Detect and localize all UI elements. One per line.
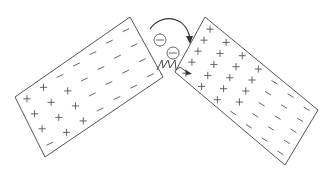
left-plate-outline xyxy=(15,17,163,157)
charge-transfer-diagram: Two charged plates tilted toward each ot… xyxy=(0,0,331,172)
electron-icon xyxy=(154,34,166,46)
left-plate xyxy=(15,17,163,157)
right-plate xyxy=(175,17,318,165)
electron-icon xyxy=(167,47,179,59)
